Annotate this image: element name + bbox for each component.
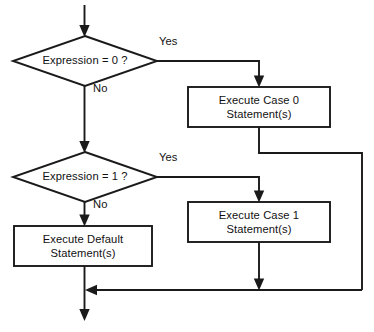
node-decision-expression-1[interactable]: Expression = 1 ? bbox=[13, 152, 157, 202]
edge-decision-0-no bbox=[79, 86, 89, 153]
edge-decision-1-no bbox=[79, 202, 89, 227]
edge-label-yes-1: Yes bbox=[159, 151, 178, 163]
process-case-0-label-line1: Execute Case 0 bbox=[219, 94, 299, 106]
edge-decision-0-yes bbox=[157, 61, 264, 88]
edge-label-yes-0: Yes bbox=[159, 35, 178, 47]
process-case-0-label-line2: Statement(s) bbox=[226, 108, 291, 120]
case-1-arrowhead-icon bbox=[254, 279, 264, 291]
process-default-label-line2: Statement(s) bbox=[50, 247, 115, 259]
edge-decision-1-yes bbox=[157, 177, 264, 203]
yes-1-line bbox=[157, 177, 259, 194]
edge-merge-rail bbox=[85, 285, 362, 295]
exit-arrowhead-icon bbox=[79, 309, 89, 321]
node-process-case-0[interactable]: Execute Case 0 Statement(s) bbox=[188, 87, 330, 127]
yes-1-arrowhead-icon bbox=[254, 191, 264, 203]
process-default-label-line1: Execute Default bbox=[43, 233, 124, 245]
edge-label-no-1: No bbox=[93, 198, 108, 210]
decision-expression-0-label: Expression = 0 ? bbox=[42, 54, 127, 66]
flowchart-canvas: Expression = 0 ? Yes Execute Case 0 Stat… bbox=[0, 0, 374, 332]
merge-arrowhead-icon bbox=[85, 285, 97, 295]
no-1-arrowhead-icon bbox=[79, 215, 89, 227]
flowchart-diagram: Expression = 0 ? Yes Execute Case 0 Stat… bbox=[0, 0, 374, 332]
decision-expression-1-label: Expression = 1 ? bbox=[42, 170, 127, 182]
process-case-1-label-line1: Execute Case 1 bbox=[219, 209, 299, 221]
edge-entry-to-decision-0 bbox=[79, 5, 89, 37]
node-process-case-1[interactable]: Execute Case 1 Statement(s) bbox=[188, 202, 330, 242]
yes-0-arrowhead-icon bbox=[254, 76, 264, 88]
node-process-default[interactable]: Execute Default Statement(s) bbox=[14, 226, 152, 266]
edge-case-1-to-merge bbox=[254, 242, 264, 291]
process-case-1-label-line2: Statement(s) bbox=[226, 223, 291, 235]
node-decision-expression-0[interactable]: Expression = 0 ? bbox=[13, 36, 157, 86]
edge-default-to-exit bbox=[79, 266, 89, 321]
yes-0-line bbox=[157, 61, 259, 79]
edge-label-no-0: No bbox=[93, 82, 108, 94]
